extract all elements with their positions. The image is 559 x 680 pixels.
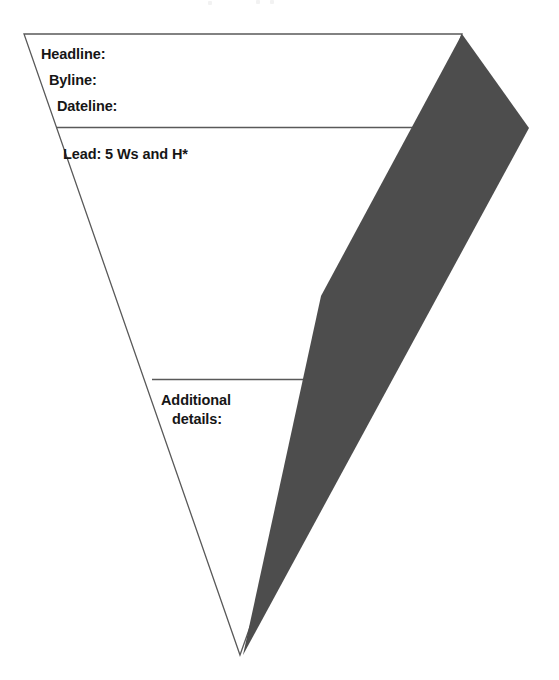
label-byline: Byline: <box>49 71 97 90</box>
label-additional-line1: Additional <box>161 392 231 408</box>
label-lead: Lead: 5 Ws and H* <box>63 145 188 164</box>
scan-artifact <box>196 0 306 6</box>
label-additional-details: Additionaldetails: <box>161 391 231 428</box>
label-headline: Headline: <box>41 45 105 64</box>
label-dateline: Dateline: <box>57 97 117 116</box>
label-additional-line2: details: <box>161 410 231 429</box>
inverted-pyramid-diagram: Headline: Byline: Dateline: Lead: 5 Ws a… <box>0 0 559 680</box>
